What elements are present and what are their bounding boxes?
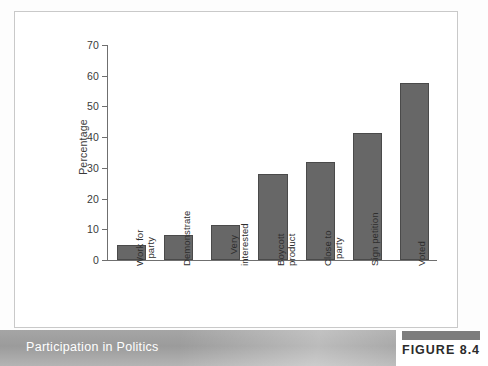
y-axis-tick-label: 10 [87, 223, 99, 235]
figure-caption: Participation in Politics [26, 340, 159, 354]
y-axis-tick-label: 0 [93, 254, 99, 266]
y-axis-tick-label: 70 [87, 39, 99, 51]
bar-slot [258, 34, 287, 260]
x-axis-line [107, 260, 437, 261]
y-axis-tick-label: 30 [87, 162, 99, 174]
x-axis-label: Boycott product [276, 234, 297, 266]
figure-badge-bar [402, 331, 480, 340]
bar-slot [117, 34, 146, 260]
bar-series [108, 34, 438, 260]
x-axis-label: Very interested [229, 223, 250, 266]
x-axis-label: Sign petition [370, 212, 381, 266]
y-axis-tick [102, 45, 107, 46]
y-axis-tick-label: 50 [87, 100, 99, 112]
y-axis-tick-label: 20 [87, 193, 99, 205]
x-axis-label: Close to party [323, 230, 344, 266]
footer-sheen [180, 330, 430, 366]
chart-panel: Percentage 010203040506070 Work for part… [14, 11, 458, 328]
y-axis-tick [102, 137, 107, 138]
figure-container: Percentage 010203040506070 Work for part… [0, 0, 488, 366]
y-axis-tick [102, 76, 107, 77]
plot-area: Percentage 010203040506070 Work for part… [107, 34, 443, 260]
bar-slot [306, 34, 335, 260]
bar-slot [400, 34, 429, 260]
y-axis-tick [102, 229, 107, 230]
y-axis-tick [102, 199, 107, 200]
x-axis-label: Demonstrate [182, 211, 193, 266]
figure-number-label: FIGURE 8.4 [402, 343, 484, 357]
x-axis-label: Voted [417, 241, 428, 266]
y-axis-tick [102, 106, 107, 107]
x-axis-label: Work for party [135, 229, 156, 266]
y-axis-tick-label: 60 [87, 70, 99, 82]
y-axis-tick [102, 168, 107, 169]
y-axis-tick-label: 40 [87, 131, 99, 143]
bar [400, 83, 429, 260]
y-axis-tick [102, 260, 107, 261]
figure-number-badge: FIGURE 8.4 [396, 330, 488, 366]
